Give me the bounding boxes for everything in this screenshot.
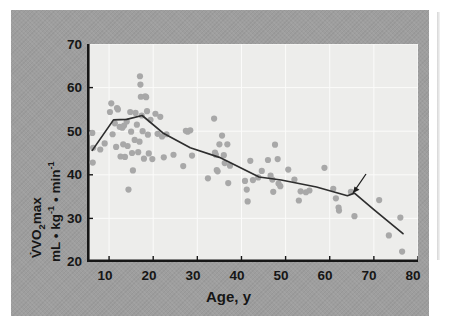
x-axis-title: Age, y: [0, 288, 457, 305]
y-tick-label-50: 50: [52, 124, 82, 139]
x-tick-label-30: 30: [176, 268, 210, 283]
y-axis-label-line1: V̇VO2max: [30, 197, 47, 258]
x-tick-label-10: 10: [88, 268, 122, 283]
x-tick-label-20: 20: [132, 268, 166, 283]
y-tick-label-20: 20: [52, 254, 82, 269]
y-axis-label-max: max: [29, 197, 44, 224]
x-tick-label-60: 60: [308, 268, 342, 283]
chart-svg: [87, 44, 418, 262]
figure-container: V̇VO2max mL • kg-1 • min-1 70 60 50 40 3…: [0, 0, 457, 335]
x-tick-label-50: 50: [264, 268, 298, 283]
y-axis-label-subscript: 2: [37, 224, 47, 229]
y-axis-label-o: VO: [29, 229, 44, 249]
v-dot-overscore: V̇: [29, 249, 44, 258]
y-tick-label-30: 30: [52, 211, 82, 226]
plot-area: [87, 44, 418, 262]
y-tick-label-40: 40: [52, 167, 82, 182]
y-tick-label-70: 70: [52, 37, 82, 52]
x-tick-label-40: 40: [220, 268, 254, 283]
page-edge-artifact: [437, 12, 440, 260]
y-tick-label-60: 60: [52, 80, 82, 95]
scatter-points-group: [89, 73, 405, 254]
x-tick-label-70: 70: [352, 268, 386, 283]
mean-arrow-group: [353, 174, 366, 193]
x-tick-label-80: 80: [396, 268, 430, 283]
